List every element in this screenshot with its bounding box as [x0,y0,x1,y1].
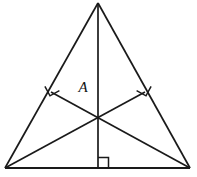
geometry-figure: A [0,0,197,177]
geometry-canvas: A [0,0,197,177]
right-angle-at-base [98,158,109,169]
orthocenter-label: A [77,79,88,95]
